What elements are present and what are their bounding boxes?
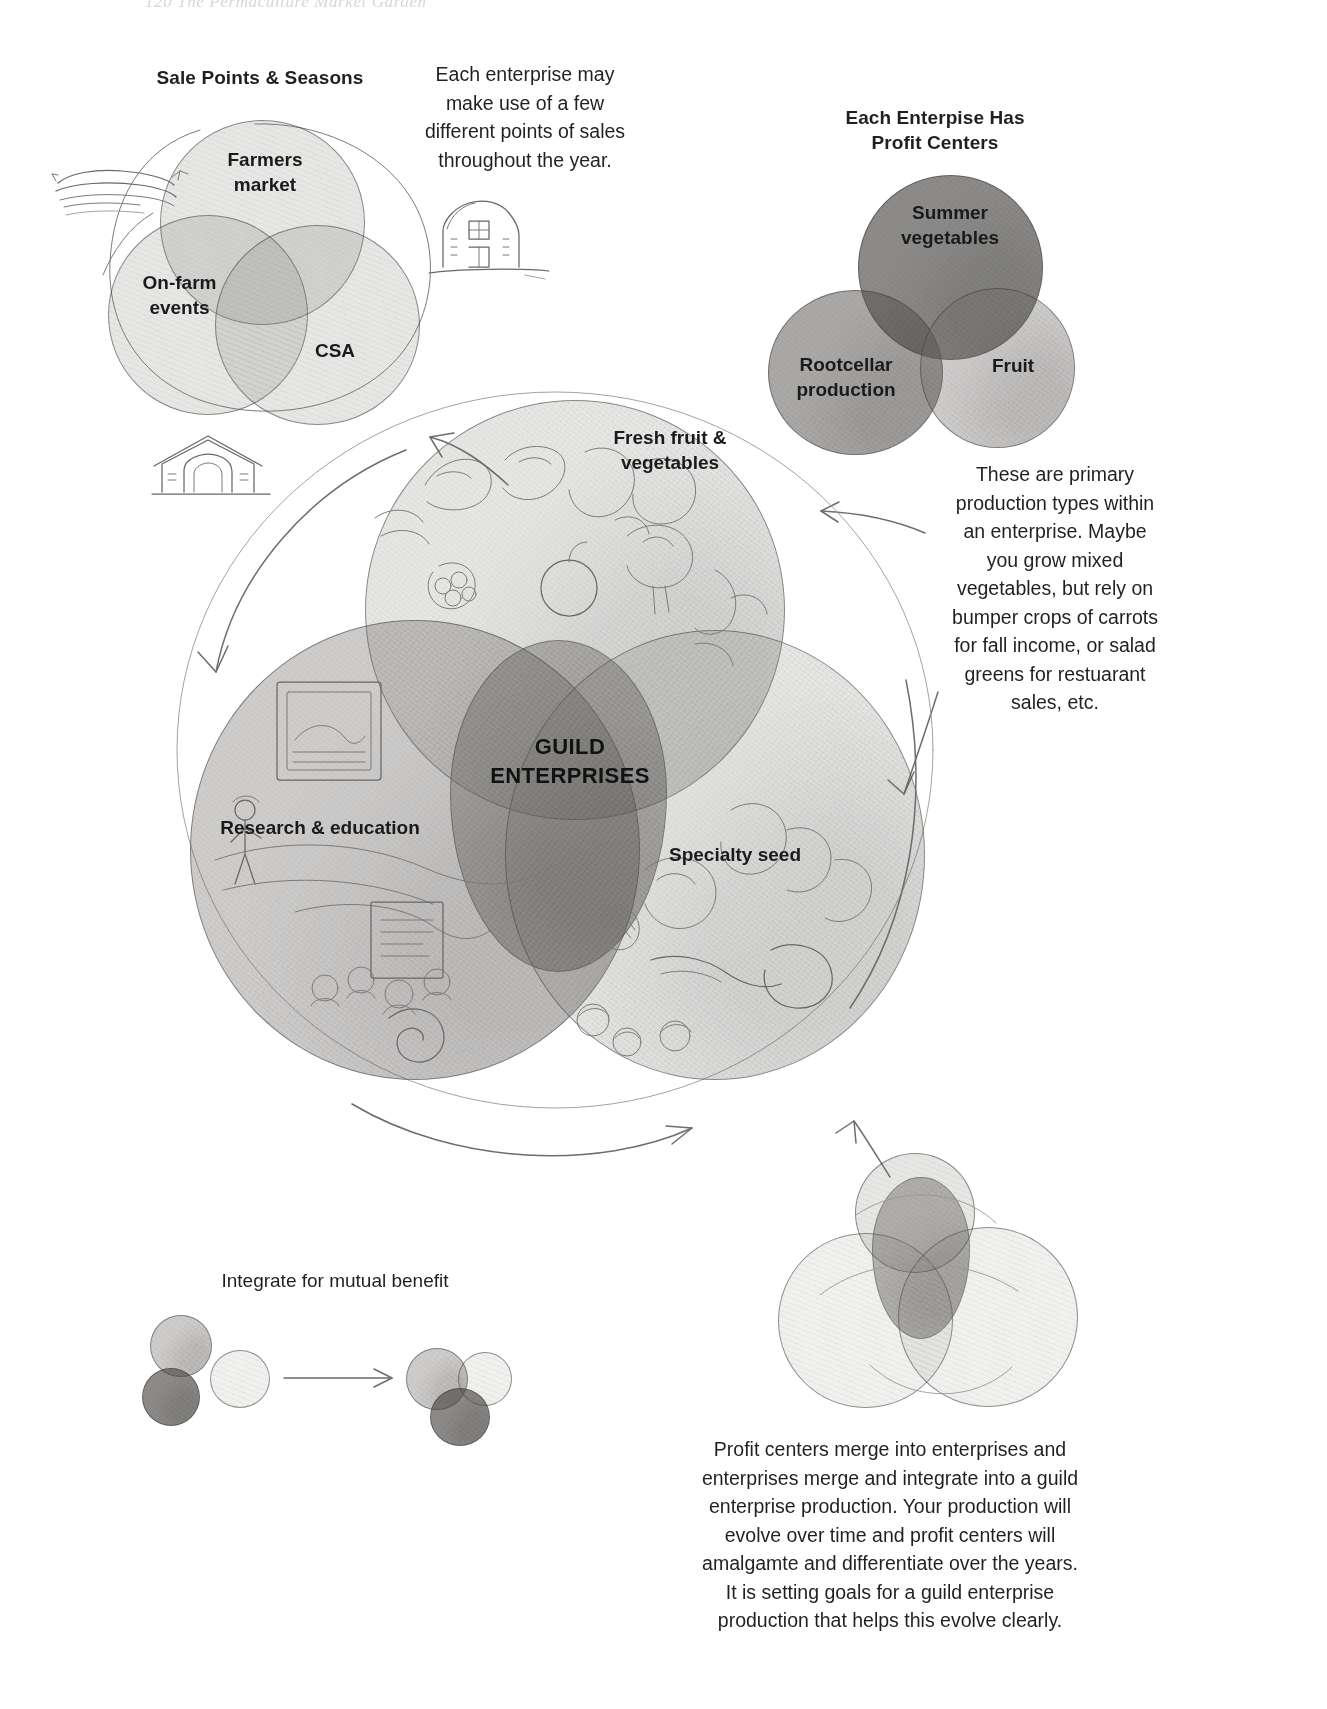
note-top-line-1: Each enterprise may [400,60,650,89]
note-top-line-4: throughout the year. [400,146,650,175]
venn-label-rootcellar-production-line2: production [766,377,926,402]
venn-label-rootcellar-production: Rootcellar production [766,352,926,402]
venn-label-csa-line1: CSA [275,338,395,363]
integrate-circle-merged-3 [430,1388,490,1446]
venn-label-farmers-market: Farmers market [185,147,345,197]
note-top-line-3: different points of sales [400,117,650,146]
venn-label-farmers-market-line2: market [185,172,345,197]
barn-icon [425,195,565,285]
integrate-circle-separate-3 [210,1350,270,1408]
note-bottom-line-4: evolve over time and profit centers will [655,1521,1125,1550]
guild-label-fresh-fruit-vegetables-line1: Fresh fruit & [580,425,760,450]
guild-inlet-arrow-icon [400,415,520,505]
note-bottom-line-5: amalgamte and differentiate over the yea… [655,1549,1125,1578]
integrate-circle-separate-2 [142,1368,200,1426]
venn-label-farmers-market-line1: Farmers [185,147,345,172]
integrate-circle-separate-1 [150,1315,212,1377]
guild-label-research-education: Research & education [195,815,445,840]
venn-label-rootcellar-production-line1: Rootcellar [766,352,926,377]
guild-label-specialty-seed: Specialty seed [635,842,835,867]
guild-center-label-line1: GUILD [470,732,670,761]
sale-points-heading: Sale Points & Seasons [110,65,410,90]
profit-centers-heading-line2: Profit Centers [800,130,1070,155]
profit-centers-heading: Each Enterpise Has Profit Centers [800,105,1070,155]
guild-label-fresh-fruit-vegetables-line2: vegetables [580,450,760,475]
venn-label-csa: CSA [275,338,395,363]
venn-label-fruit-line1: Fruit [958,353,1068,378]
venn-label-summer-vegetables-line2: vegetables [865,225,1035,250]
note-bottom-text: Profit centers merge into enterprises an… [655,1435,1125,1635]
guild-label-research-education-line1: Research & education [195,815,445,840]
guild-label-specialty-seed-line1: Specialty seed [635,842,835,867]
note-bottom-line-2: enterprises merge and integrate into a g… [655,1464,1125,1493]
venn-label-on-farm-events-line1: On-farm [102,270,257,295]
profit-centers-heading-line1: Each Enterpise Has [800,105,1070,130]
note-bottom-line-3: enterprise production. Your production w… [655,1492,1125,1521]
venn-label-on-farm-events: On-farm events [102,270,257,320]
note-bottom-line-1: Profit centers merge into enterprises an… [655,1435,1125,1464]
merge-arrow-icon [280,1358,410,1398]
venn-label-summer-vegetables-line1: Summer [865,200,1035,225]
integrate-caption: Integrate for mutual benefit [170,1268,500,1294]
guild-center-label-line2: ENTERPRISES [470,761,670,790]
page-header-faint: 120 The Permaculture Market Garden [145,0,427,12]
integrate-group: Integrate for mutual benefit [130,1260,550,1460]
guild-center-label: GUILD ENTERPRISES [470,732,670,790]
venn-label-summer-vegetables: Summer vegetables [865,200,1035,250]
note-top-text: Each enterprise may make use of a few di… [400,60,650,174]
note-top-line-2: make use of a few [400,89,650,118]
venn-label-fruit: Fruit [958,353,1068,378]
guild-label-fresh-fruit-vegetables: Fresh fruit & vegetables [580,425,760,475]
venn-label-on-farm-events-line2: events [102,295,257,320]
note-bottom-line-6: It is setting goals for a guild enterpri… [655,1578,1125,1607]
note-bottom-line-7: production that helps this evolve clearl… [655,1606,1125,1635]
